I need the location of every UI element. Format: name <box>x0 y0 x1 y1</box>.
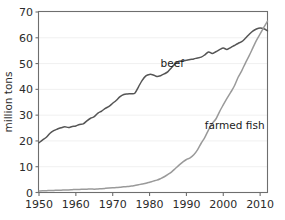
y-tick-label: 20 <box>19 135 33 148</box>
y-tick-label: 30 <box>19 109 33 122</box>
plot-frame <box>39 12 268 193</box>
line-chart: 1950196019701980199020002010 01020304050… <box>0 0 285 220</box>
x-tick-label: 2000 <box>209 198 237 211</box>
chart-container: 1950196019701980199020002010 01020304050… <box>0 0 285 220</box>
x-tick-label: 1960 <box>62 198 90 211</box>
y-tick-label: 0 <box>26 187 33 200</box>
y-tick-label: 40 <box>19 83 33 96</box>
data-series-group <box>39 21 268 191</box>
series-label-beef: beef <box>161 57 185 69</box>
y-tick-label: 70 <box>19 6 33 19</box>
y-axis-tick-labels: 010203040506070 <box>19 6 33 200</box>
y-tick-label: 60 <box>19 32 33 45</box>
x-tick-label: 1990 <box>172 198 200 211</box>
series-label-farmed-fish: farmed fish <box>205 119 265 131</box>
y-tick-label: 10 <box>19 161 33 174</box>
series-annotations: beeffarmed fish <box>161 57 265 131</box>
y-tick-label: 50 <box>19 58 33 71</box>
x-tick-label: 1980 <box>136 198 164 211</box>
x-tick-label: 2010 <box>246 198 274 211</box>
tickmarks-group <box>36 12 261 196</box>
gridlines-group <box>39 38 268 167</box>
x-tick-label: 1970 <box>99 198 127 211</box>
y-axis-title: million tons <box>2 72 14 133</box>
x-axis-tick-labels: 1950196019701980199020002010 <box>25 198 274 211</box>
